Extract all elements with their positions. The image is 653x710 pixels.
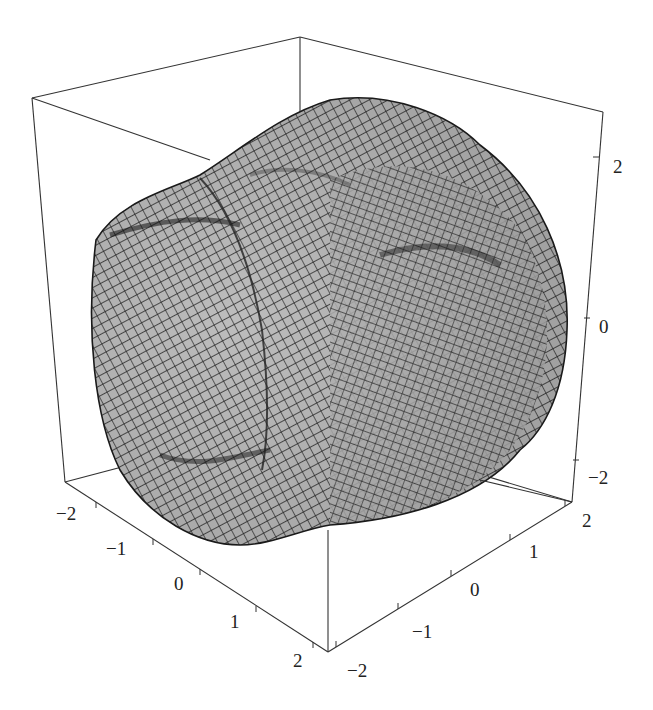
surface-mesh bbox=[92, 98, 568, 545]
y-tick-label: −1 bbox=[412, 621, 432, 642]
x-tick-label: −2 bbox=[56, 503, 76, 524]
surface-plot-3d: −2 −1 0 1 2 −2 −1 0 1 2 2 0 −2 bbox=[0, 0, 653, 710]
z-tick-label: 0 bbox=[599, 316, 609, 337]
x-tick-label: −1 bbox=[106, 538, 126, 559]
x-tick-label: 2 bbox=[293, 650, 303, 671]
y-tick-label: 1 bbox=[529, 541, 539, 562]
z-axis: 2 0 −2 bbox=[573, 156, 623, 488]
x-tick-label: 0 bbox=[174, 573, 184, 594]
x-tick-label: 1 bbox=[230, 611, 240, 632]
y-axis: −2 −1 0 1 2 bbox=[336, 500, 592, 681]
y-tick-label: −2 bbox=[347, 660, 367, 681]
y-tick-label: 0 bbox=[470, 579, 480, 600]
z-tick-label: 2 bbox=[613, 156, 623, 177]
z-tick-label: −2 bbox=[588, 467, 608, 488]
y-tick-label: 2 bbox=[582, 510, 592, 531]
